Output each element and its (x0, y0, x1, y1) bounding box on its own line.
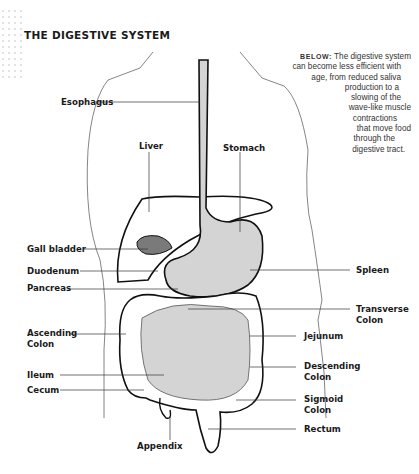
stomach-shape (165, 60, 263, 297)
label-spleen: Spleen (356, 265, 389, 276)
label-duodenum: Duodenum (27, 266, 79, 277)
label-rectum: Rectum (304, 424, 341, 435)
label-ileum: Ileum (27, 370, 54, 381)
label-stomach: Stomach (223, 143, 265, 154)
digestive-system-illustration (0, 0, 419, 474)
label-esophagus: Esophagus (61, 97, 113, 108)
label-appendix: Appendix (137, 441, 183, 452)
label-ascending-colon: Ascending Colon (27, 328, 77, 350)
label-cecum: Cecum (27, 385, 59, 396)
label-sigmoid-colon: Sigmoid Colon (304, 394, 343, 416)
label-jejunum: Jejunum (304, 331, 343, 342)
label-descending-colon: Descending Colon (304, 361, 361, 383)
label-transverse-colon: Transverse Colon (356, 304, 409, 326)
label-gall-bladder: Gall bladder (27, 244, 86, 255)
small-intestine-shape (141, 305, 250, 401)
label-pancreas: Pancreas (27, 283, 71, 294)
label-liver: Liver (139, 141, 163, 152)
